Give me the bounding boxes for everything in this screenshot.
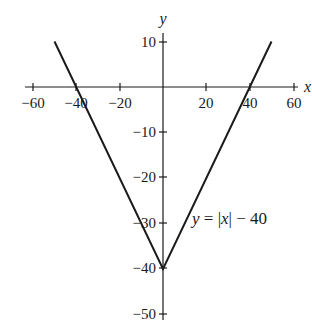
- equation-label: y = |x| − 40: [190, 209, 267, 228]
- equation-equals: =: [200, 209, 218, 228]
- equation-y: y: [190, 209, 200, 228]
- y-axis-label: y: [157, 10, 167, 28]
- y-tick-label: −10: [133, 124, 156, 140]
- x-tick-label: 20: [199, 95, 214, 111]
- equation-rest: − 40: [232, 209, 267, 228]
- y-tick-label: −50: [133, 306, 156, 322]
- x-axis-label: x: [303, 78, 311, 95]
- y-tick-labels: 10 −10 −20 −30 −40 −50: [133, 34, 156, 322]
- chart-plot: −60 −40 −20 20 40 60 10 −10 −20 −30 −40 …: [0, 0, 312, 326]
- x-tick-label: −20: [108, 95, 131, 111]
- x-tick-label: 60: [287, 95, 302, 111]
- x-tick-labels: −60 −40 −20 20 40 60: [21, 95, 301, 111]
- y-tick-label: 10: [141, 34, 156, 50]
- x-tick-label: −60: [21, 95, 44, 111]
- y-tick-label: −40: [133, 260, 156, 276]
- y-tick-label: −20: [133, 169, 156, 185]
